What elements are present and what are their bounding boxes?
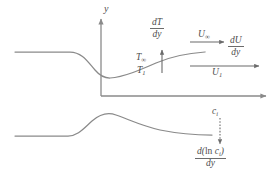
t-infinity-subscript: ∞ [141,56,146,63]
u-one-symbol: U [212,67,219,77]
u-infinity-label: U∞ [198,30,210,40]
u-one-subscript: 1 [219,71,222,78]
concentration-profile-curve [15,114,212,136]
dT-dy-numerator: dT [150,18,164,28]
y-axis-label: y [104,4,108,14]
u-one-label: U1 [212,68,222,78]
figure-canvas [0,0,280,179]
c-i-label: ci [212,107,218,117]
t-one-label: T1 [137,66,146,76]
temperature-profile-curve [15,52,205,78]
d-ln-ci-dy-numerator: d(ln ci) [195,147,226,158]
ln-operator: ln [205,146,212,156]
dT-dy-fraction: dT dy [150,18,164,40]
u-infinity-symbol: U [198,29,205,39]
dU-dy-numerator: dU [228,36,244,46]
t-infinity-label: T∞ [136,53,146,63]
u-infinity-subscript: ∞ [205,33,210,40]
dU-dy-denominator: dy [228,46,244,57]
dU-dy-fraction: dU dy [228,36,244,58]
d-ln-ci-open: d( [197,146,205,156]
t-one-subscript: 1 [142,69,145,76]
d-ln-ci-close: ) [221,146,224,156]
dT-dy-denominator: dy [150,28,164,39]
gradient-profile-figure: y dT dy T∞ T1 U∞ dU dy U1 ci d(ln ci) dy [0,0,280,179]
c-i-subscript: i [216,110,218,117]
d-ln-ci-dy-denominator: dy [195,158,226,169]
d-ln-ci-dy-fraction: d(ln ci) dy [195,147,226,169]
